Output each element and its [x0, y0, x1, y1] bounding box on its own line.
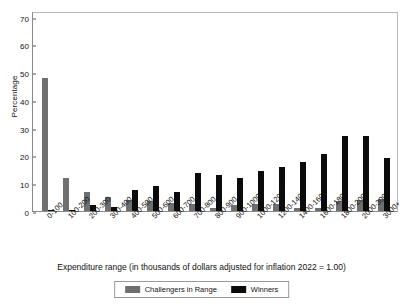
bar-group: [205, 13, 226, 211]
plot-area: 010203040506070: [32, 12, 398, 212]
bar-group: [352, 13, 373, 211]
bar-group: [121, 13, 142, 211]
y-tick-40: 40: [20, 97, 33, 106]
y-tick-30: 30: [20, 125, 33, 134]
y-tick-20: 20: [20, 153, 33, 162]
bar-group: [58, 13, 79, 211]
bar-group: [184, 13, 205, 211]
bar-group: [310, 13, 331, 211]
bar-group: [142, 13, 163, 211]
bar-chart-figure: Percentage 010203040506070 0-100100-2002…: [0, 0, 403, 304]
y-tick-10: 10: [20, 181, 33, 190]
bar-series-container: [33, 13, 397, 211]
legend-swatch: [125, 286, 140, 293]
bar-group: [268, 13, 289, 211]
x-axis-tick-labels: 0-100100-200200-300300-400400-500500-600…: [32, 214, 398, 258]
bar-group: [163, 13, 184, 211]
bar-group: [289, 13, 310, 211]
x-axis-title: Expenditure range (in thousands of dolla…: [0, 262, 403, 272]
y-axis-title: Percentage: [10, 57, 19, 137]
chart-legend: Challengers in RangeWinners: [114, 281, 290, 298]
bar-challengers: [42, 78, 48, 211]
bar-group: [226, 13, 247, 211]
bar-group: [100, 13, 121, 211]
bar-winners: [321, 154, 327, 211]
bar-group: [79, 13, 100, 211]
legend-label: Challengers in Range: [145, 285, 217, 294]
legend-label: Winners: [251, 285, 279, 294]
bar-winners: [300, 162, 306, 211]
bar-group: [37, 13, 58, 211]
bar-group: [331, 13, 352, 211]
y-tick-60: 60: [20, 42, 33, 51]
bar-group: [247, 13, 268, 211]
y-tick-50: 50: [20, 70, 33, 79]
bar-winners: [384, 158, 390, 211]
legend-item: Winners: [231, 285, 279, 294]
y-tick-70: 70: [20, 14, 33, 23]
legend-swatch: [231, 286, 246, 293]
legend-item: Challengers in Range: [125, 285, 217, 294]
bar-group: [373, 13, 394, 211]
